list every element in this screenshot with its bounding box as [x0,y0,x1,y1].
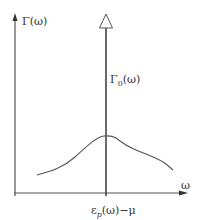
x-axis [14,191,188,196]
delta-peak-label-subscript: 0 [118,79,123,88]
y-axis-label: Γ(ω) [22,16,47,27]
x-marker-label-subscript: p [97,210,102,219]
y-axis-arrow-icon [13,13,18,21]
open-triangle-arrow-icon [100,14,113,28]
delta-peak [100,14,113,196]
delta-peak-label-base: Γ [110,73,118,86]
diagram-canvas [0,0,199,220]
x-axis-label: ω [181,180,190,191]
y-axis [13,13,18,196]
x-marker-label-base: ε [91,204,97,217]
delta-peak-label-suffix: (ω) [123,73,141,86]
x-marker-label: εp(ω)−μ [91,205,136,216]
x-marker-label-suffix: (ω)−μ [102,204,136,217]
broad-spectral-curve [37,136,173,175]
delta-peak-label: Γ0(ω) [110,74,140,85]
